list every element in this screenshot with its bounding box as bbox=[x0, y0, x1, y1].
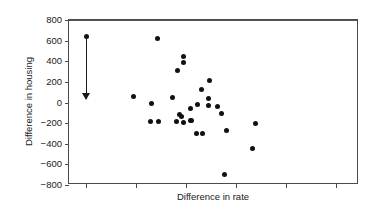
range-arrow-annotation bbox=[82, 39, 91, 99]
y-axis-tick-label: 0 bbox=[57, 98, 62, 108]
data-point bbox=[222, 172, 227, 177]
data-point bbox=[206, 103, 211, 108]
y-axis-tick bbox=[65, 61, 69, 62]
data-point bbox=[250, 146, 255, 151]
data-point bbox=[195, 102, 200, 107]
scatter-plot-figure: 8006004002000−200−400−600−800 Difference… bbox=[0, 0, 372, 212]
data-point bbox=[174, 119, 179, 124]
x-axis-tick bbox=[336, 183, 337, 188]
y-axis-tick bbox=[65, 20, 69, 21]
y-axis-tick bbox=[65, 144, 69, 145]
data-point bbox=[148, 119, 153, 124]
x-axis-tick bbox=[286, 183, 287, 188]
plot-area: 8006004002000−200−400−600−800 bbox=[68, 19, 358, 184]
y-axis-title: Difference in housing bbox=[22, 19, 36, 184]
y-axis-tick-label: 400 bbox=[46, 57, 62, 67]
data-point bbox=[253, 121, 258, 126]
data-point bbox=[181, 54, 186, 59]
data-point bbox=[188, 106, 193, 111]
y-axis-tick bbox=[65, 185, 69, 186]
data-point bbox=[224, 128, 229, 133]
data-point bbox=[215, 104, 220, 109]
data-point bbox=[219, 111, 224, 116]
y-axis-tick-label: −800 bbox=[41, 180, 62, 190]
zero-reference-line bbox=[69, 20, 357, 21]
data-point bbox=[199, 87, 204, 92]
data-point bbox=[207, 78, 212, 83]
data-point bbox=[175, 68, 180, 73]
y-axis-tick-label: 600 bbox=[46, 36, 62, 46]
x-axis-title: Difference in rate bbox=[68, 192, 358, 202]
x-axis-tick bbox=[136, 183, 137, 188]
data-point bbox=[179, 114, 184, 119]
data-point bbox=[188, 118, 193, 123]
y-axis-tick-label: 200 bbox=[46, 77, 62, 87]
data-point bbox=[149, 101, 154, 106]
y-axis-tick-label: 800 bbox=[46, 15, 62, 25]
x-axis-tick bbox=[236, 183, 237, 188]
x-axis-tick bbox=[86, 183, 87, 188]
data-point bbox=[170, 95, 175, 100]
y-axis-tick-label: −600 bbox=[41, 160, 62, 170]
y-axis-tick-label: −400 bbox=[41, 139, 62, 149]
y-axis-tick bbox=[65, 123, 69, 124]
arrow-shaft bbox=[86, 39, 87, 99]
y-axis-tick bbox=[65, 82, 69, 83]
data-point bbox=[155, 36, 160, 41]
y-axis-tick bbox=[65, 41, 69, 42]
arrow-head bbox=[82, 93, 90, 100]
data-point bbox=[194, 131, 199, 136]
y-axis-tick-label: −200 bbox=[41, 118, 62, 128]
data-point bbox=[131, 94, 136, 99]
data-point bbox=[156, 119, 161, 124]
y-axis-tick bbox=[65, 103, 69, 104]
data-point bbox=[206, 96, 211, 101]
data-point bbox=[181, 60, 186, 65]
x-axis-tick bbox=[186, 183, 187, 188]
y-axis-tick bbox=[65, 164, 69, 165]
data-point bbox=[200, 131, 205, 136]
data-point bbox=[181, 120, 186, 125]
